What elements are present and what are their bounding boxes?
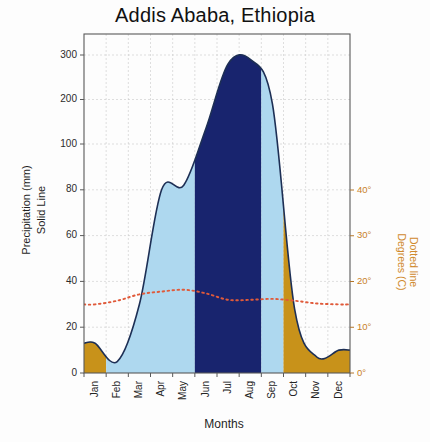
y-axis-left-ticks: 020406080100200300 [60, 49, 84, 378]
y-tick-label: 300 [60, 49, 77, 60]
x-tick-label-jun: Jun [200, 381, 211, 397]
y-tick-label-right: 0° [357, 367, 366, 378]
y-axis-left-title-line1: Precipitation (mm) [20, 165, 32, 254]
y-tick-label: 200 [60, 93, 77, 104]
x-tick-label-may: May [177, 381, 188, 400]
y-tick-label-right: 10° [357, 321, 372, 332]
x-tick-label-jan: Jan [89, 381, 100, 397]
chart-canvas: 020406080100200300 0°10°20°30°40° JanFeb… [0, 0, 430, 442]
x-tick-label-jul: Jul [222, 381, 233, 394]
season-band-dry-season-late [284, 34, 351, 373]
y-tick-label: 100 [60, 138, 77, 149]
y-axis-right-title-line1: Degrees (C) [396, 233, 408, 290]
x-tick-label-mar: Mar [133, 380, 144, 398]
x-tick-label-apr: Apr [155, 380, 166, 396]
season-band-dry-season-early [84, 34, 106, 373]
x-axis-month-ticks: JanFebMarAprMayJunJulAugSepOctNovDec [84, 373, 350, 400]
x-tick-label-nov: Nov [310, 381, 321, 399]
y-axis-left-title: Precipitation (mm) Solid Line [20, 165, 47, 254]
y-tick-label-right: 20° [357, 275, 372, 286]
climate-diagram: Addis Ababa, Ethiopia 020406080100200300… [0, 0, 430, 442]
x-tick-label-sep: Sep [266, 381, 277, 399]
season-band-humid-season-autumn [261, 34, 283, 373]
y-tick-label-right: 30° [357, 229, 372, 240]
x-tick-label-dec: Dec [333, 381, 344, 399]
x-axis-title: Months [204, 417, 243, 431]
x-tick-label-aug: Aug [244, 381, 255, 399]
x-tick-label-oct: Oct [288, 381, 299, 397]
y-tick-label: 20 [66, 321, 78, 332]
y-axis-left-title-line2: Solid Line [35, 186, 47, 234]
y-tick-label: 60 [66, 229, 78, 240]
y-tick-label: 40 [66, 275, 78, 286]
season-band-wet-season-summer [195, 34, 261, 373]
y-axis-right-ticks: 0°10°20°30°40° [350, 184, 372, 378]
y-tick-label-right: 40° [357, 184, 372, 195]
y-tick-label: 80 [66, 183, 78, 194]
y-axis-right-title: Degrees (C) Dotted line [396, 233, 420, 290]
y-tick-label: 0 [71, 367, 77, 378]
x-tick-label-feb: Feb [111, 381, 122, 399]
y-axis-right-title-line2: Dotted line [408, 237, 420, 287]
precipitation-area-bands [84, 34, 350, 373]
